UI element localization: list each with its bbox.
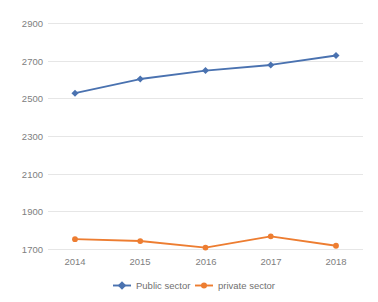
y-tick-1900: 1900: [22, 206, 43, 217]
data-point[interactable]: [202, 67, 209, 74]
y-tick-1700: 1700: [22, 244, 43, 255]
data-point[interactable]: [268, 233, 274, 239]
legend-label-private-sector: private sector: [218, 280, 275, 291]
series-public-sector: [71, 52, 339, 97]
gridlines: [48, 24, 363, 250]
x-axis-labels: 2014 2015 2016 2017 2018: [64, 256, 346, 267]
legend-marker-public-icon: [118, 281, 126, 289]
data-point[interactable]: [267, 61, 274, 68]
y-tick-2700: 2700: [22, 56, 43, 67]
legend-label-public-sector: Public sector: [136, 280, 190, 291]
y-tick-2900: 2900: [22, 18, 43, 29]
y-tick-2100: 2100: [22, 169, 43, 180]
data-point[interactable]: [72, 236, 78, 242]
legend-marker-private-icon: [201, 283, 207, 289]
legend-item-public-sector[interactable]: Public sector: [113, 280, 190, 291]
x-tick-2015: 2015: [129, 256, 150, 267]
x-tick-2017: 2017: [260, 256, 281, 267]
legend-item-private-sector[interactable]: private sector: [195, 280, 275, 291]
data-point[interactable]: [333, 243, 339, 249]
line-chart: 2900 2700 2500 2300 2100 1900 1700 2014 …: [0, 0, 378, 302]
data-point[interactable]: [71, 90, 78, 97]
y-tick-2500: 2500: [22, 93, 43, 104]
x-tick-2014: 2014: [64, 256, 85, 267]
data-point[interactable]: [137, 238, 143, 244]
y-tick-2300: 2300: [22, 131, 43, 142]
chart-legend: Public sector private sector: [113, 280, 275, 291]
series-markers-private-sector: [72, 233, 339, 250]
x-tick-2016: 2016: [195, 256, 216, 267]
x-tick-2018: 2018: [325, 256, 346, 267]
series-markers-public-sector: [71, 52, 339, 97]
data-point[interactable]: [332, 52, 339, 59]
chart-canvas: 2900 2700 2500 2300 2100 1900 1700 2014 …: [0, 0, 378, 302]
data-point[interactable]: [137, 76, 144, 83]
y-axis-labels: 2900 2700 2500 2300 2100 1900 1700: [22, 18, 43, 255]
series-private-sector: [72, 233, 339, 250]
data-point[interactable]: [203, 245, 209, 251]
